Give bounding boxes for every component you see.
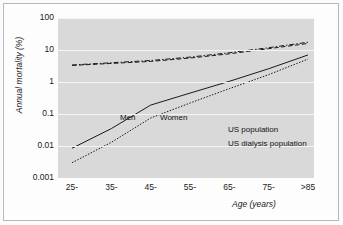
- y-axis-tick-label: 1: [0, 77, 54, 86]
- plot-area: [58, 18, 314, 178]
- legend-col-women: Women: [160, 113, 187, 123]
- x-axis-tick-label: 25-: [52, 183, 92, 192]
- data-curves: [58, 18, 314, 178]
- gridline: [58, 178, 314, 179]
- y-axis-tick-label: 0.01: [0, 141, 54, 150]
- gridline: [58, 18, 314, 19]
- legend-col-men: Men: [120, 113, 136, 123]
- legend-label-us-dialysis-population: US dialysis population: [228, 139, 307, 149]
- y-axis-tick-label: 0.001: [0, 173, 54, 182]
- x-axis-tick-label: 75-: [249, 183, 289, 192]
- gridline: [58, 82, 314, 83]
- y-axis-tick-label: 100: [0, 13, 54, 22]
- y-axis-tick-label: 0.1: [0, 109, 54, 118]
- legend-label-us-population: US population: [228, 125, 278, 135]
- gridline: [58, 50, 314, 51]
- x-axis-tick-label: 65-: [209, 183, 249, 192]
- x-axis-title: Age (years): [232, 199, 276, 209]
- x-axis-tick-label: 45-: [131, 183, 171, 192]
- x-axis-tick-label: 35-: [91, 183, 131, 192]
- x-axis-tick-label: >85: [288, 183, 328, 192]
- y-axis-tick-label: 10: [0, 45, 54, 54]
- x-axis-tick-label: 55-: [170, 183, 210, 192]
- series-line-women-us-dialysis-population: [72, 42, 308, 65]
- figure-container: Annual mortality (%) 1001010.10.010.001 …: [0, 0, 343, 225]
